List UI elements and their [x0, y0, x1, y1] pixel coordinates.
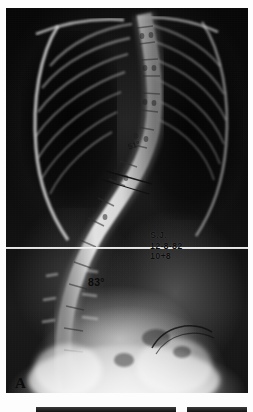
adjacent-figure-strip-left: [36, 407, 176, 412]
lumbar-angle-label: 83°: [88, 276, 105, 288]
figure-page: S.J. 12-8-82 10+8 51° 83° A: [0, 0, 253, 412]
panel-label: A: [15, 375, 26, 392]
patient-initials: S.J.: [150, 230, 182, 241]
spine-anatomy: [6, 8, 248, 393]
exam-date: 12-8-82: [150, 241, 182, 252]
patient-age: 10+8: [150, 251, 182, 262]
right-iliac-wing: [136, 338, 212, 393]
adjacent-figure-strip-right: [187, 407, 247, 412]
left-chest-wall: [35, 26, 68, 240]
left-ribs: [36, 24, 132, 194]
spinal-column-glow: [64, 14, 155, 388]
left-clavicle: [36, 20, 124, 34]
film-seam-line: [6, 247, 248, 249]
right-chest-wall: [196, 22, 227, 236]
patient-annotation-block: S.J. 12-8-82 10+8: [150, 230, 182, 262]
radiograph-plate: S.J. 12-8-82 10+8 51° 83° A: [6, 8, 248, 393]
